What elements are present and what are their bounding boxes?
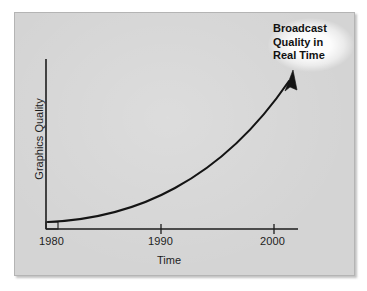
- origin-notch: [46, 222, 58, 229]
- curve-arrowhead: [285, 70, 297, 91]
- annotation-line-2: Quality in: [273, 36, 327, 50]
- x-tick-label-1980: 1980: [39, 235, 64, 247]
- chart-figure: Broadcast Quality in Real Time 1980 1990…: [0, 0, 367, 291]
- x-tick-label-2000: 2000: [260, 235, 285, 247]
- annotation-line-3: Real Time: [273, 49, 327, 63]
- chart-panel: Broadcast Quality in Real Time 1980 1990…: [14, 12, 355, 276]
- x-axis-title: Time: [157, 254, 181, 266]
- annotation-label: Broadcast Quality in Real Time: [273, 22, 327, 63]
- y-axis-title: Graphics Quality: [33, 84, 45, 194]
- x-tick-label-1990: 1990: [148, 235, 173, 247]
- annotation-line-1: Broadcast: [273, 22, 327, 36]
- growth-curve: [48, 81, 289, 222]
